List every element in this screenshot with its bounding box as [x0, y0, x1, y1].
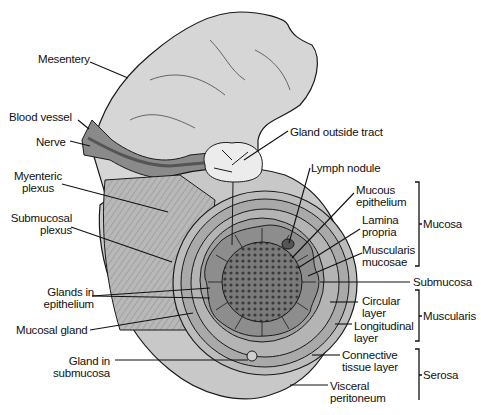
label-myenteric-line1: Myenteric	[12, 170, 64, 182]
label-glands-in-epithelium: Glands in epithelium	[30, 286, 94, 310]
group-label-serosa: Serosa	[423, 369, 458, 381]
group-label-muscularis: Muscularis	[423, 310, 476, 322]
group-label-mucosa: Mucosa	[423, 218, 462, 230]
label-submucosal-plexus: Submucosal plexus	[8, 212, 72, 236]
digestive-tract-diagram: Mesentery Blood vessel Nerve Myenteric p…	[0, 0, 481, 415]
label-lamina-line2: propria	[362, 226, 399, 238]
label-visceral-line2: peritoneum	[330, 392, 386, 404]
group-label-submucosa: Submucosa	[413, 276, 472, 288]
label-lamina-propria: Lamina propria	[362, 214, 399, 238]
label-glands-epi-line2: epithelium	[30, 298, 94, 310]
label-muscularis-mucosae: Muscularis mucosae	[362, 244, 415, 268]
label-mesentery: Mesentery	[38, 53, 90, 65]
label-longitudinal-layer: Longitudinal layer	[354, 320, 414, 344]
label-circular-layer: Circular layer	[362, 295, 400, 319]
lymph-nodule	[282, 239, 294, 249]
label-longitudinal-line2: layer	[354, 332, 414, 344]
label-mucosal-gland: Mucosal gland	[16, 324, 88, 336]
label-connective-line1: Connective	[342, 349, 398, 361]
lumen-villi	[222, 242, 302, 322]
label-lymph-nodule: Lymph nodule	[311, 162, 380, 174]
label-connective-tissue-layer: Connective tissue layer	[342, 349, 398, 373]
label-myenteric-plexus: Myenteric plexus	[12, 170, 64, 194]
label-myenteric-line2: plexus	[12, 182, 64, 194]
label-longitudinal-line1: Longitudinal	[354, 320, 414, 332]
label-gland-sub-line2: submucosa	[44, 367, 110, 379]
gland-in-submucosa	[247, 351, 257, 361]
label-blood-vessel: Blood vessel	[9, 111, 72, 123]
label-submucosal-line2: plexus	[8, 224, 72, 236]
label-submucosal-line1: Submucosal	[8, 212, 72, 224]
label-nerve: Nerve	[36, 136, 66, 148]
label-gland-outside-tract: Gland outside tract	[290, 126, 383, 138]
label-musc-muc-line2: mucosae	[362, 256, 415, 268]
label-visceral-peritoneum: Visceral peritoneum	[330, 380, 386, 404]
label-lamina-line1: Lamina	[362, 214, 399, 226]
label-musc-muc-line1: Muscularis	[362, 244, 415, 256]
brackets	[415, 182, 422, 400]
label-visceral-line1: Visceral	[330, 380, 386, 392]
label-mucous-epithelium: Mucous epithelium	[356, 184, 406, 208]
label-circular-line1: Circular	[362, 295, 400, 307]
label-connective-line2: tissue layer	[342, 361, 398, 373]
label-gland-in-submucosa: Gland in submucosa	[44, 355, 110, 379]
label-gland-sub-line1: Gland in	[44, 355, 110, 367]
label-glands-epi-line1: Glands in	[30, 286, 94, 298]
label-mucous-line1: Mucous	[356, 184, 406, 196]
gland-outside-tract	[204, 142, 262, 182]
label-mucous-line2: epithelium	[356, 196, 406, 208]
label-circular-line2: layer	[362, 307, 400, 319]
